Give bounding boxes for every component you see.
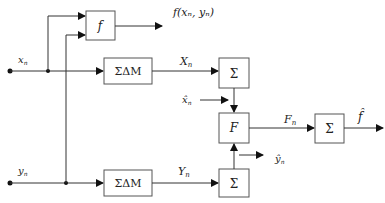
sum-out-label: Σ — [325, 122, 333, 136]
x-hat-label: x̂n — [182, 94, 192, 106]
Y-label: Yn — [178, 165, 190, 179]
y-hat-label: ŷn — [274, 153, 285, 165]
y-input-label: yn — [17, 165, 28, 177]
sdm-top-label: ΣΔM — [115, 65, 142, 78]
f-hat-label: f̂ — [357, 108, 365, 124]
sdm-bottom-label: ΣΔM — [115, 177, 142, 190]
x-input-label: xn — [18, 54, 28, 66]
sum-bottom-label: Σ — [230, 177, 238, 191]
sum-top-label: Σ — [230, 67, 238, 81]
f-output-label: f(xₙ, yₙ) — [172, 6, 214, 19]
Fn-label: Fn — [283, 113, 297, 127]
X-label: Xn — [179, 55, 193, 69]
block-diagram: f f(xₙ, yₙ) ΣΔM Xn Σ x̂n F Fn ŷn ΣΔM Yn … — [0, 0, 385, 203]
F-block-label: F — [229, 121, 239, 135]
